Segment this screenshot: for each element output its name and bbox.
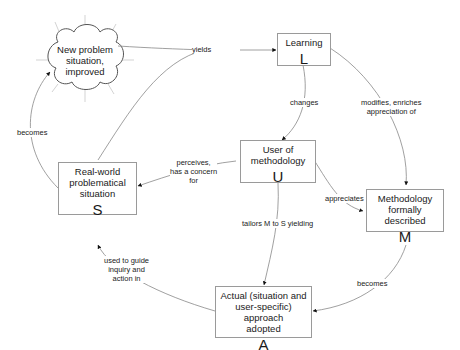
- edge-label-line: yields: [192, 45, 211, 54]
- node-user-title-2: methodology: [241, 155, 315, 166]
- node-actual[interactable]: Actual (situation and user-specific) app…: [215, 286, 312, 338]
- node-real-world[interactable]: Real-world problematical situation S: [58, 162, 137, 215]
- edge-label-becomes-m-a: becomes: [357, 279, 387, 288]
- edge-label-line: used to guide: [104, 256, 149, 265]
- edge-label-modifies: modifies, enriches appreciation of: [361, 98, 421, 116]
- edge-label-line: inquiry and: [104, 265, 149, 274]
- node-real-world-title-2: problematical: [59, 177, 136, 188]
- node-real-world-letter: S: [59, 201, 136, 219]
- edge-modifies: [330, 48, 406, 185]
- edge-label-line: becomes: [17, 128, 47, 137]
- node-new-problem-line: situation,: [52, 55, 118, 66]
- node-actual-title-3: adopted: [216, 323, 311, 334]
- node-new-problem[interactable]: New problem situation, improved: [52, 44, 118, 77]
- node-actual-title-2: user-specific) approach: [216, 301, 311, 323]
- edge-label-line: modifies, enriches: [361, 98, 421, 107]
- node-user-letter: U: [241, 168, 315, 186]
- edge-label-line: for: [170, 176, 217, 185]
- node-actual-letter: A: [216, 336, 311, 350]
- node-methodology-title-2: formally described: [367, 204, 443, 226]
- edge-appreciates: [314, 160, 363, 211]
- edge-label-line: action in: [104, 274, 149, 283]
- edge-label-line: changes: [290, 98, 318, 107]
- edge-label-yields: yields: [192, 45, 211, 54]
- node-real-world-title-1: Real-world: [59, 163, 136, 177]
- edge-label-appreciates: appreciates: [325, 194, 364, 203]
- node-learning-letter: L: [278, 50, 330, 68]
- edge-label-tailors: tailors M to S yielding: [242, 219, 313, 228]
- node-methodology[interactable]: Methodology formally described M: [366, 189, 444, 232]
- node-new-problem-line: improved: [52, 66, 118, 77]
- edge-becomes-m-a: [313, 245, 406, 311]
- edge-label-used-to-guide: used to guide inquiry and action in: [104, 256, 149, 283]
- node-user-title-1: User of: [241, 141, 315, 155]
- edge-label-changes: changes: [290, 98, 318, 107]
- node-real-world-title-3: situation: [59, 188, 136, 199]
- node-learning-title: Learning: [278, 34, 330, 48]
- edge-label-perceives: perceives, has a concern for: [170, 158, 217, 185]
- node-user[interactable]: User of methodology U: [240, 140, 316, 183]
- edge-label-line: has a concern: [170, 167, 217, 176]
- edge-label-becomes-s-n: becomes: [17, 128, 47, 137]
- node-methodology-title-1: Methodology: [367, 190, 443, 204]
- node-new-problem-line: New problem: [52, 44, 118, 55]
- edge-label-line: perceives,: [170, 158, 217, 167]
- node-actual-title-1: Actual (situation and: [216, 287, 311, 301]
- node-learning[interactable]: Learning L: [277, 33, 331, 66]
- edge-label-line: becomes: [357, 279, 387, 288]
- node-methodology-letter: M: [367, 228, 443, 246]
- edge-label-line: appreciation of: [361, 107, 421, 116]
- edge-tailors: [264, 183, 278, 285]
- edge-label-line: appreciates: [325, 194, 364, 203]
- edge-label-line: tailors M to S yielding: [242, 219, 313, 228]
